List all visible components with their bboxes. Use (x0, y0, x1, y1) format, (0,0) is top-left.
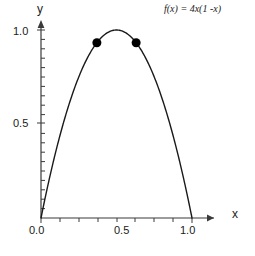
x-axis-ticks (41, 218, 192, 223)
data-point-markers (92, 38, 140, 47)
x-tick-label-0-5: 0.5 (114, 224, 129, 236)
y-axis-title: y (37, 2, 43, 16)
x-axis-arrowhead (207, 215, 214, 222)
curve-parabola (41, 30, 192, 218)
x-axis (41, 215, 214, 223)
chart-figure: 1.0 0.5 0.0 0.5 1.0 y x f(x) = 4x(1 -x) (0, 0, 255, 256)
y-axis-arrowhead (38, 20, 45, 28)
y-tick-label-0-5: 0.5 (13, 117, 28, 129)
y-tick-label-1-0: 1.0 (13, 25, 28, 37)
x-tick-label-0-0: 0.0 (29, 224, 44, 236)
data-point-right-point (132, 38, 141, 47)
data-point-left-point (92, 38, 101, 47)
function-formula-annotation: f(x) = 4x(1 -x) (164, 3, 221, 14)
x-axis-title: x (232, 207, 238, 221)
x-tick-label-1-0: 1.0 (180, 224, 195, 236)
y-axis (37, 20, 45, 218)
plot-canvas (0, 0, 255, 256)
